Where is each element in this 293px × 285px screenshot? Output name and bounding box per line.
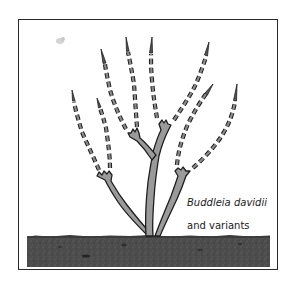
shoot-5 (150, 37, 158, 118)
caption-species-name: Buddleia davidii (187, 197, 267, 208)
caption-qualifier: and variants (187, 220, 250, 231)
right-stem (155, 167, 190, 236)
pruned-stems (97, 120, 190, 236)
soil-band (27, 235, 270, 267)
buddleia-pruning-illustration (0, 0, 293, 285)
shoot-1 (72, 90, 99, 170)
left-stem (97, 171, 152, 236)
shoot-2 (97, 98, 110, 168)
shoot-6 (174, 42, 209, 120)
shoot-4 (126, 37, 137, 127)
shoot-3 (101, 49, 126, 129)
smudge-mark (56, 37, 65, 44)
center-side-branch (128, 128, 156, 160)
shoot-8 (193, 84, 237, 168)
